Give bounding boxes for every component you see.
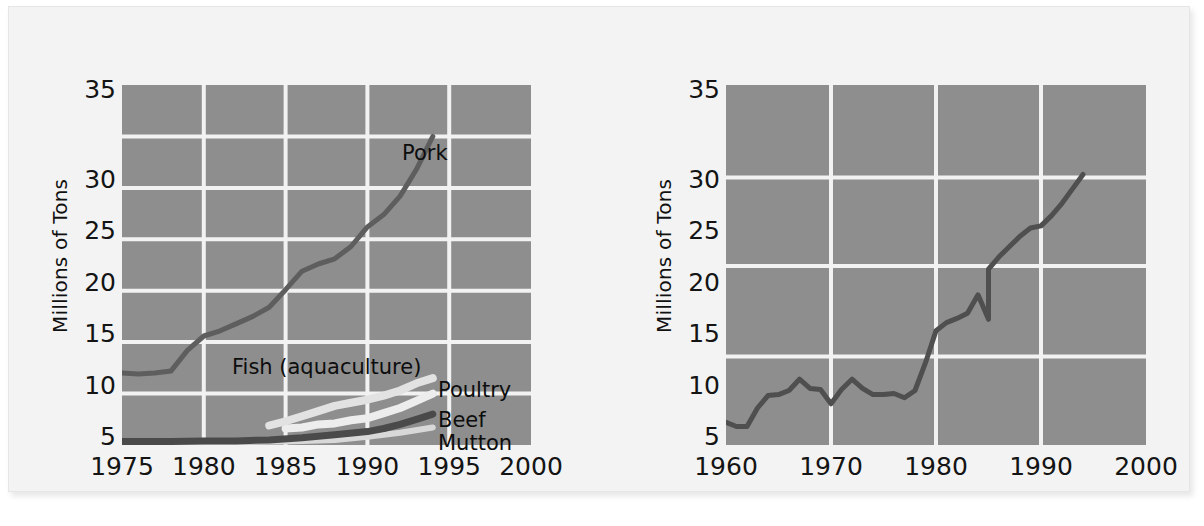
y-tick-right-30: 30 [674, 167, 720, 192]
series-label-poultry: Poultry [438, 380, 511, 401]
x-tick-right-1970: 1970 [799, 454, 863, 479]
y-tick-left-15: 15 [70, 321, 116, 346]
y-tick-right-35: 35 [674, 77, 720, 102]
x-tick-right-2000: 2000 [1114, 454, 1178, 479]
y-tick-left-10: 10 [70, 373, 116, 398]
x-tick-left-2000: 2000 [499, 454, 563, 479]
series-label-beef: Beef [438, 410, 486, 431]
x-axis-ticks-left: 1975 1980 1985 1990 1995 2000 [122, 454, 531, 488]
series-line-world [726, 175, 1083, 427]
x-tick-left-1980: 1980 [172, 454, 236, 479]
screenshot-page: Millions of Tons 5 10 15 20 25 30 35 [0, 0, 1204, 526]
x-tick-right-1980: 1980 [904, 454, 968, 479]
x-axis-ticks-right: 1960 1970 1980 1990 2000 [726, 454, 1146, 488]
y-axis-ticks-left: 5 10 15 20 25 30 35 [60, 85, 116, 445]
y-tick-right-25: 25 [674, 218, 720, 243]
y-tick-left-25: 25 [70, 218, 116, 243]
y-tick-left-20: 20 [70, 270, 116, 295]
series-label-mutton: Mutton [438, 433, 512, 454]
y-tick-right-10: 10 [674, 373, 720, 398]
series-label-pork: Pork [402, 143, 448, 164]
x-tick-right-1990: 1990 [1009, 454, 1073, 479]
chart-panel-left: Millions of Tons 5 10 15 20 25 30 35 [8, 6, 608, 492]
y-tick-left-30: 30 [70, 167, 116, 192]
y-tick-right-15: 15 [674, 321, 720, 346]
x-tick-right-1960: 1960 [694, 454, 758, 479]
chart-panel-right: Millions of Tons 5 10 15 20 25 30 35 [608, 6, 1190, 492]
gridlines-vertical-left [204, 85, 449, 445]
x-tick-left-1985: 1985 [254, 454, 318, 479]
x-tick-left-1995: 1995 [417, 454, 481, 479]
line-chart-right [726, 85, 1146, 445]
figure-card: Millions of Tons 5 10 15 20 25 30 35 [8, 6, 1190, 492]
plot-area-left: Pork Fish (aquaculture) Poultry Beef Mut… [122, 85, 531, 445]
x-tick-left-1975: 1975 [90, 454, 154, 479]
y-tick-right-5: 5 [674, 424, 720, 449]
plot-area-right [726, 85, 1146, 445]
y-tick-left-35: 35 [70, 77, 116, 102]
y-tick-right-20: 20 [674, 270, 720, 295]
series-line-pork [122, 136, 433, 374]
x-tick-left-1990: 1990 [336, 454, 400, 479]
series-label-fish: Fish (aquaculture) [232, 357, 421, 378]
y-tick-left-5: 5 [70, 424, 116, 449]
y-axis-ticks-right: 5 10 15 20 25 30 35 [664, 85, 720, 445]
